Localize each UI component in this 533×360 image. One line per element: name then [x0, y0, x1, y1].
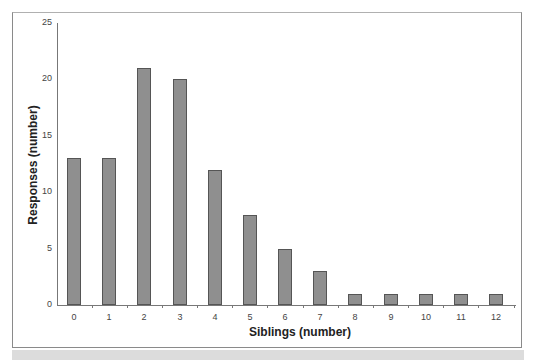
x-tick-mark — [408, 305, 409, 308]
x-tick-mark — [443, 305, 444, 308]
x-tick-mark — [232, 305, 233, 308]
y-axis-label: Responses (number) — [26, 95, 40, 235]
x-tick-label: 12 — [484, 312, 508, 322]
x-tick-label: 4 — [203, 312, 227, 322]
x-axis-label: Siblings (number) — [230, 325, 370, 339]
bar-7 — [313, 271, 327, 305]
x-tick-mark — [303, 305, 304, 308]
y-axis-line — [57, 23, 58, 306]
x-tick-mark — [478, 305, 479, 308]
x-tick-label: 0 — [62, 312, 86, 322]
x-tick-mark — [373, 305, 374, 308]
bar-5 — [243, 215, 257, 305]
x-tick-label: 6 — [273, 312, 297, 322]
y-tick-label: 0 — [32, 299, 52, 309]
x-tick-label: 2 — [132, 312, 156, 322]
x-tick-mark — [267, 305, 268, 308]
bar-3 — [173, 79, 187, 305]
x-tick-label: 3 — [168, 312, 192, 322]
bar-4 — [208, 170, 222, 305]
bar-6 — [278, 249, 292, 305]
x-tick-label: 9 — [379, 312, 403, 322]
bar-12 — [489, 294, 503, 305]
x-tick-label: 5 — [238, 312, 262, 322]
bar-2 — [137, 68, 151, 305]
y-tick-label: 20 — [32, 73, 52, 83]
bar-9 — [384, 294, 398, 305]
x-axis-line — [57, 305, 516, 306]
bar-10 — [419, 294, 433, 305]
x-tick-mark — [338, 305, 339, 308]
chart-frame — [12, 12, 522, 348]
x-tick-mark — [514, 305, 515, 308]
x-tick-label: 7 — [308, 312, 332, 322]
y-tick-label: 25 — [32, 17, 52, 27]
y-tick-label: 5 — [32, 243, 52, 253]
x-tick-label: 1 — [97, 312, 121, 322]
x-tick-mark — [197, 305, 198, 308]
x-tick-mark — [92, 305, 93, 308]
x-tick-label: 10 — [414, 312, 438, 322]
bar-8 — [348, 294, 362, 305]
x-tick-mark — [127, 305, 128, 308]
bar-0 — [67, 158, 81, 305]
x-tick-label: 11 — [449, 312, 473, 322]
bar-11 — [454, 294, 468, 305]
x-tick-label: 8 — [343, 312, 367, 322]
bar-1 — [102, 158, 116, 305]
bottom-shadow-band — [12, 350, 524, 360]
x-tick-mark — [162, 305, 163, 308]
